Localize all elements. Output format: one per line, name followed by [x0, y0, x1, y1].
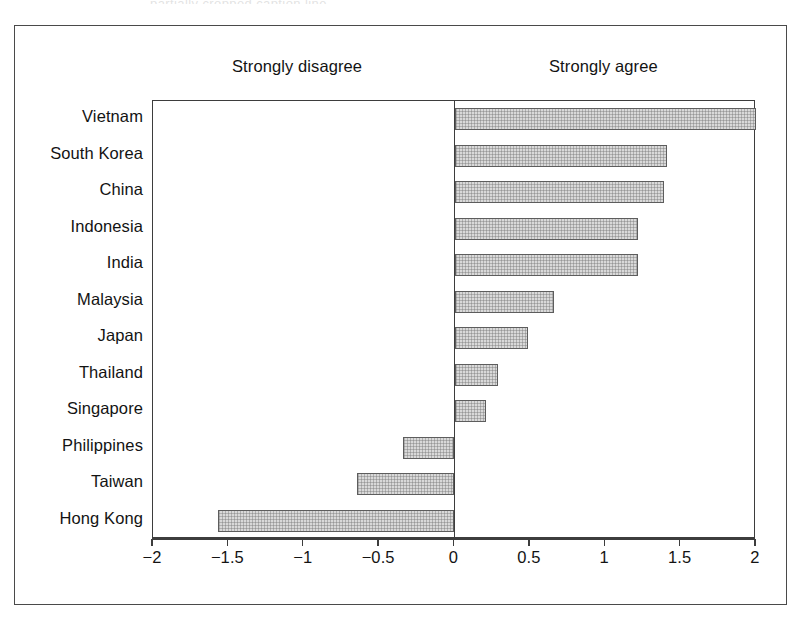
axis-tick-label: −1.5 [211, 548, 244, 567]
axis-tick [151, 539, 152, 546]
category-label: Japan [3, 326, 143, 345]
axis-pole-label-disagree: Strongly disagree [232, 57, 362, 76]
axis-tick [377, 539, 378, 546]
bar [455, 218, 639, 240]
bar [455, 145, 668, 167]
category-label: Indonesia [3, 217, 143, 236]
category-label: Singapore [3, 399, 143, 418]
category-label: Vietnam [3, 107, 143, 126]
axis-pole-label-agree: Strongly agree [549, 57, 658, 76]
bar [455, 108, 757, 130]
bar [455, 364, 499, 386]
axis-tick-label: 0.5 [517, 548, 540, 567]
axis-tick-label: −0.5 [362, 548, 395, 567]
category-axis-labels: VietnamSouth KoreaChinaIndonesiaIndiaMal… [0, 100, 143, 538]
category-label: Hong Kong [3, 509, 143, 528]
category-label: India [3, 253, 143, 272]
bar [455, 254, 639, 276]
axis-tick [302, 539, 303, 546]
axis-tick-label: 1.5 [668, 548, 691, 567]
bar [218, 510, 455, 532]
value-axis-ticks: −2−1.5−1−0.500.511.52 [152, 539, 755, 579]
axis-tick [528, 539, 529, 546]
category-label: China [3, 180, 143, 199]
category-label: Malaysia [3, 290, 143, 309]
clipped-caption-remnant: partially cropped caption line [150, 0, 570, 4]
axis-tick [227, 539, 228, 546]
axis-tick-label: −1 [293, 548, 312, 567]
bar [403, 437, 454, 459]
bar [455, 327, 529, 349]
category-label: Taiwan [3, 472, 143, 491]
category-label: Philippines [3, 436, 143, 455]
axis-tick [453, 539, 454, 546]
axis-tick-label: 2 [750, 548, 759, 567]
bar [357, 473, 455, 495]
axis-tick-label: 0 [449, 548, 458, 567]
chart-figure: partially cropped caption line Strongly … [0, 0, 804, 620]
plot-area [152, 100, 755, 538]
axis-tick [604, 539, 605, 546]
bar [455, 400, 487, 422]
bar [455, 181, 665, 203]
category-label: South Korea [3, 144, 143, 163]
axis-tick-label: −2 [142, 548, 161, 567]
category-label: Thailand [3, 363, 143, 382]
axis-tick [679, 539, 680, 546]
bar [455, 291, 554, 313]
axis-tick [754, 539, 755, 546]
axis-tick-label: 1 [600, 548, 609, 567]
